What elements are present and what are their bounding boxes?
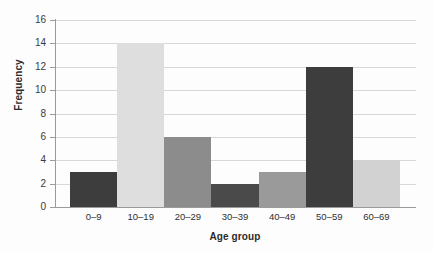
y-tick-label-text: 10 <box>6 85 46 95</box>
x-axis-title: Age group <box>55 231 415 242</box>
y-tick-mark <box>50 20 55 21</box>
y-tick-label: 14 <box>0 38 46 48</box>
x-tick-label: 30–39 <box>211 211 258 223</box>
y-tick-mark <box>50 160 55 161</box>
y-tick-label: 2 <box>0 179 46 189</box>
bar <box>306 67 353 207</box>
bar <box>70 172 117 207</box>
y-tick-label-text: 4 <box>6 155 46 165</box>
bars-series <box>56 20 416 207</box>
y-tick-mark <box>50 137 55 138</box>
bar <box>164 137 211 207</box>
y-tick-label-text: 16 <box>6 15 46 25</box>
y-tick-mark <box>50 114 55 115</box>
y-tick-label-text: 14 <box>6 38 46 48</box>
y-tick-label-text: 8 <box>6 109 46 119</box>
bar <box>259 172 306 207</box>
y-tick-mark <box>50 67 55 68</box>
x-tick-label: 50–59 <box>306 211 353 223</box>
bar <box>211 184 258 207</box>
bar <box>353 160 400 207</box>
y-tick-mark <box>50 43 55 44</box>
y-tick-mark <box>50 90 55 91</box>
bar-chart: Frequency 0246810121416 0–910–1920–2930–… <box>0 0 433 253</box>
x-tick-label: 40–49 <box>259 211 306 223</box>
bar <box>117 43 164 207</box>
y-tick-label: 4 <box>0 155 46 165</box>
x-axis-line <box>55 207 416 208</box>
y-tick-label-text: 12 <box>6 62 46 72</box>
y-tick-mark <box>50 207 55 208</box>
y-tick-label: 6 <box>0 132 46 142</box>
y-tick-label: 0 <box>0 202 46 212</box>
x-tick-label: 60–69 <box>353 211 400 223</box>
x-tick-label: 0–9 <box>70 211 117 223</box>
y-tick-label: 16 <box>0 15 46 25</box>
x-tick-label: 20–29 <box>164 211 211 223</box>
y-tick-mark <box>50 184 55 185</box>
y-tick-label: 12 <box>0 62 46 72</box>
y-tick-label: 10 <box>0 85 46 95</box>
x-tick-label: 10–19 <box>117 211 164 223</box>
y-tick-label: 8 <box>0 109 46 119</box>
y-tick-label-text: 0 <box>6 202 46 212</box>
y-tick-label-text: 6 <box>6 132 46 142</box>
y-tick-label-text: 2 <box>6 179 46 189</box>
